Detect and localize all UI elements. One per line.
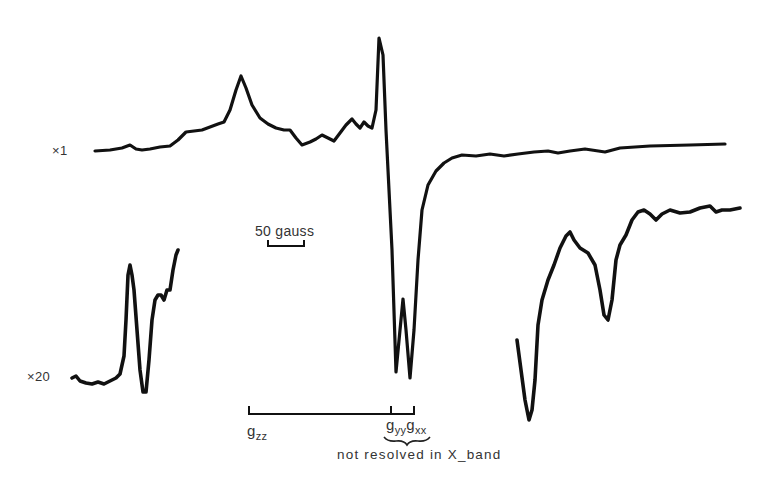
trace-x20-high-field (517, 206, 740, 420)
trace-x20-low-field (72, 250, 178, 392)
scale-bar (268, 240, 304, 246)
brace-note: not resolved in X_band (337, 447, 502, 462)
gain-label-x20: ×20 (27, 369, 50, 384)
trace-x1 (95, 38, 725, 378)
g-value-bracket (249, 406, 414, 414)
gain-label-x1: ×1 (52, 143, 67, 158)
g-zz-label: gzz (247, 422, 267, 439)
curly-brace (384, 437, 430, 445)
g-yy-xx-label: gyygxx (386, 416, 427, 433)
scale-bar-label: 50 gauss (255, 223, 314, 239)
